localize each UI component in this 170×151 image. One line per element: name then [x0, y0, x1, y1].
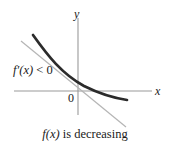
caption-argument: (x) [46, 127, 60, 141]
derivative-annotation-value: 0 [46, 63, 52, 77]
tangent-line [21, 41, 126, 127]
axis-label-y: y [74, 8, 79, 20]
decreasing-function-figure: y x 0 f′(x) < 0 f(x) is decreasing [0, 0, 170, 151]
figure-caption: f(x) is decreasing [0, 128, 170, 141]
axis-label-x: x [155, 85, 160, 97]
caption-statement: is decreasing [60, 127, 128, 141]
derivative-annotation: f′(x) < 0 [13, 64, 53, 77]
origin-label: 0 [68, 92, 74, 104]
derivative-annotation-argument: (x) [19, 63, 33, 77]
